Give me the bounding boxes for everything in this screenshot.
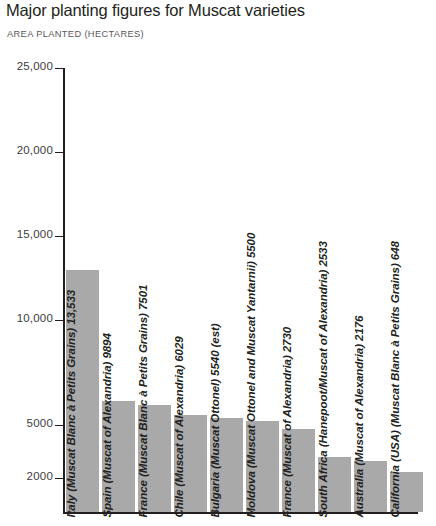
bar-label: Spain (Muscat of Alexandria) 9894 [101, 333, 113, 517]
bar-label: France (Muscat of Alexandria) 2730 [281, 327, 293, 518]
bar-label: South Africa (Hanepoot/Muscat of Alexand… [317, 241, 329, 517]
bar-label: Chile (Muscat of Alexandria) 6029 [173, 336, 185, 517]
bar-label: Italy (Muscat Blanc à Petits Grains) 13,… [65, 290, 77, 518]
bar-label: California (USA) (Muscat Blanc à Petits … [389, 241, 401, 517]
y-tick-mark [55, 425, 64, 427]
y-tick-mark [55, 236, 64, 238]
y-tick-label: 10,000 [5, 312, 53, 324]
bar-label: Bulgaria (Muscat Ottonel) 5540 (est) [209, 323, 221, 517]
chart-container: Major planting figures for Muscat variet… [0, 0, 436, 526]
y-tick-label: 15,000 [5, 228, 53, 240]
bar-label: Australia (Muscat of Alexandria) 2176 [353, 316, 365, 518]
y-tick-mark [55, 152, 64, 154]
y-tick-mark [55, 320, 64, 322]
bar-label: France (Muscat Blanc à Petits Grains) 75… [137, 285, 149, 518]
bar-label: Moldova (Muscat Ottonel and Muscat Yanta… [245, 233, 257, 518]
y-tick-mark [55, 68, 64, 70]
y-tick-mark [55, 478, 64, 480]
y-tick-label: 2000 [5, 470, 53, 482]
y-tick-label: 5000 [5, 417, 53, 429]
y-tick-label: 25,000 [5, 60, 53, 72]
y-tick-label: 20,000 [5, 144, 53, 156]
plot-area: 25,00020,00015,00010,00050002000 Italy (… [0, 0, 436, 526]
